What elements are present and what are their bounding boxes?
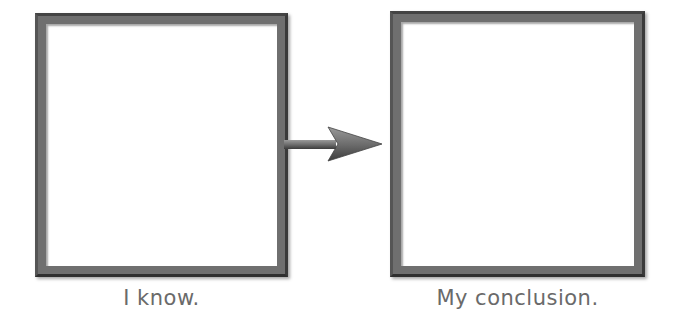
conclusion-box [390,11,645,277]
conclusion-label: My conclusion. [390,286,645,310]
known-label: I know. [35,286,288,310]
arrow-right-icon [284,124,384,164]
known-box [35,13,288,277]
